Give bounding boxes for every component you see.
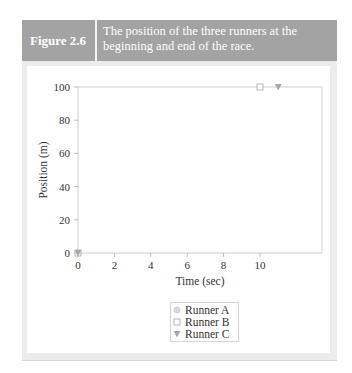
legend-item-runner-c: Runner C <box>173 328 236 340</box>
chart-legend: Runner A Runner B Runner C <box>170 302 239 342</box>
legend-label: Runner B <box>185 316 229 328</box>
x-tick-label: 6 <box>184 259 190 271</box>
x-tick-label: 4 <box>148 259 154 271</box>
y-tick-label: 40 <box>59 181 71 193</box>
x-tick-label: 0 <box>75 259 81 271</box>
square-marker-icon <box>173 318 181 326</box>
x-tick-label: 10 <box>255 259 267 271</box>
legend-item-runner-a: Runner A <box>173 304 236 316</box>
triangle-marker-icon <box>173 330 181 338</box>
legend-label: Runner A <box>185 304 229 316</box>
data-point-runner-b <box>257 84 263 90</box>
data-points <box>75 84 282 257</box>
legend-label: Runner C <box>185 328 229 340</box>
legend-item-runner-b: Runner B <box>173 316 236 328</box>
y-axis-title: Position (m) <box>37 141 50 198</box>
y-tick-label: 20 <box>59 214 71 226</box>
y-tick-label: 100 <box>54 81 71 93</box>
y-tick-label: 60 <box>59 147 71 159</box>
circle-marker-icon <box>173 306 181 314</box>
y-tick-label: 80 <box>59 114 71 126</box>
plot-area <box>78 87 322 253</box>
x-axis-title: Time (sec) <box>175 275 224 288</box>
x-tick-label: 2 <box>112 259 118 271</box>
x-tick-label: 8 <box>221 259 227 271</box>
y-tick-label: 0 <box>65 247 71 259</box>
y-axis: 020406080100 <box>54 81 79 259</box>
x-axis: 0246810 <box>75 253 266 271</box>
